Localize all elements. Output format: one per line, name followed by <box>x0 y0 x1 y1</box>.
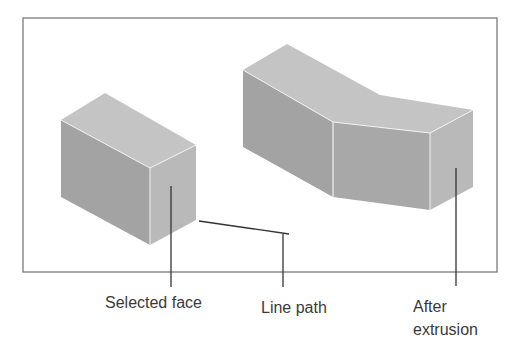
label-after-extrusion-line2: extrusion <box>413 319 478 341</box>
original-box <box>61 93 196 245</box>
line-path <box>199 221 289 234</box>
label-selected-face: Selected face <box>105 292 202 314</box>
label-after-extrusion-line1: After <box>413 296 447 318</box>
extruded-left-face-2 <box>333 122 430 210</box>
label-line-path: Line path <box>261 297 327 319</box>
extruded-shape <box>243 44 473 210</box>
